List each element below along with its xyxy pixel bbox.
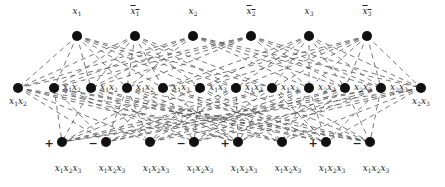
bottom-node-5 bbox=[277, 137, 287, 147]
edge bbox=[200, 36, 367, 88]
edges-layer bbox=[0, 0, 445, 187]
edge bbox=[91, 36, 251, 88]
bottom-node-4 bbox=[233, 137, 243, 147]
edge bbox=[251, 36, 381, 88]
middle-node-6 bbox=[231, 83, 241, 93]
sign-6: + bbox=[308, 137, 317, 150]
edge bbox=[18, 36, 77, 88]
middle-label-2: x1x2 bbox=[100, 83, 118, 93]
edge bbox=[236, 36, 367, 88]
edge bbox=[251, 36, 309, 88]
edge bbox=[62, 88, 91, 142]
edge bbox=[77, 36, 200, 88]
bottom-node-6 bbox=[321, 137, 331, 147]
middle-node-1 bbox=[49, 83, 59, 93]
edge bbox=[367, 36, 421, 88]
edge bbox=[54, 88, 106, 142]
edge bbox=[18, 36, 135, 88]
edge bbox=[309, 36, 381, 88]
top-node-0 bbox=[72, 31, 82, 41]
sign-3: − bbox=[176, 137, 185, 150]
edge bbox=[236, 36, 309, 88]
sign-7: − bbox=[352, 137, 361, 150]
middle-label-4: x1x3 bbox=[172, 83, 190, 93]
edge bbox=[193, 36, 309, 88]
bottom-node-0 bbox=[57, 137, 67, 147]
edge bbox=[163, 36, 367, 88]
middle-node-9 bbox=[340, 83, 350, 93]
top-node-5 bbox=[362, 31, 372, 41]
bottom-label-4: x1x2x3 bbox=[231, 164, 258, 174]
edge bbox=[127, 36, 251, 88]
sign-4: + bbox=[220, 137, 229, 150]
middle-node-8 bbox=[304, 83, 314, 93]
middle-label-6: x1x3 bbox=[245, 83, 263, 93]
edge bbox=[150, 88, 200, 142]
bottom-node-2 bbox=[145, 137, 155, 147]
edge bbox=[135, 36, 200, 88]
middle-label-0: x1x2 bbox=[9, 97, 27, 107]
bottom-node-7 bbox=[365, 137, 375, 147]
middle-label-1: x1x2 bbox=[63, 83, 81, 93]
middle-label-5: x1x3 bbox=[209, 83, 227, 93]
top-label-4: x3 bbox=[305, 7, 314, 17]
bottom-label-5: x1x2x3 bbox=[275, 164, 302, 174]
edge bbox=[127, 36, 193, 88]
top-label-2: x2 bbox=[189, 7, 198, 17]
edge bbox=[200, 36, 309, 88]
middle-node-2 bbox=[86, 83, 96, 93]
middle-node-7 bbox=[267, 83, 277, 93]
middle-node-5 bbox=[195, 83, 205, 93]
edge bbox=[367, 36, 381, 88]
bottom-label-2: x1x2x3 bbox=[143, 164, 170, 174]
edge bbox=[106, 88, 236, 142]
bottom-label-0: x1x2x3 bbox=[55, 164, 82, 174]
top-node-2 bbox=[188, 31, 198, 41]
middle-node-11 bbox=[416, 83, 426, 93]
top-label-3: x2 bbox=[247, 7, 256, 17]
bottom-label-1: x1x2x3 bbox=[99, 164, 126, 174]
bottom-label-6: x1x2x3 bbox=[319, 164, 346, 174]
middle-label-7: x1x3 bbox=[281, 83, 299, 93]
edge bbox=[91, 36, 135, 88]
middle-label-9: x2x3 bbox=[354, 83, 372, 93]
middle-label-8: x2x3 bbox=[318, 83, 336, 93]
edge bbox=[194, 88, 200, 142]
middle-node-10 bbox=[376, 83, 386, 93]
top-label-5: x3 bbox=[363, 7, 372, 17]
top-label-1: x1 bbox=[131, 7, 140, 17]
edge bbox=[326, 88, 421, 142]
edge bbox=[309, 36, 421, 88]
sign-0: + bbox=[44, 137, 53, 150]
top-node-1 bbox=[130, 31, 140, 41]
middle-label-3: x1x2 bbox=[136, 83, 154, 93]
edge bbox=[54, 88, 370, 142]
middle-node-0 bbox=[13, 83, 23, 93]
middle-label-11: x2x3 bbox=[412, 97, 430, 107]
middle-node-3 bbox=[122, 83, 132, 93]
sign-1: − bbox=[88, 137, 97, 150]
bottom-node-3 bbox=[189, 137, 199, 147]
middle-label-10: x2x3 bbox=[390, 83, 408, 93]
edge bbox=[54, 36, 251, 88]
edge bbox=[77, 36, 163, 88]
top-node-3 bbox=[246, 31, 256, 41]
bottom-label-7: x1x2x3 bbox=[363, 164, 390, 174]
middle-node-4 bbox=[158, 83, 168, 93]
edge bbox=[236, 88, 238, 142]
bottom-node-1 bbox=[101, 137, 111, 147]
edge bbox=[370, 88, 381, 142]
edge bbox=[54, 88, 194, 142]
bottom-label-3: x1x2x3 bbox=[187, 164, 214, 174]
top-node-4 bbox=[304, 31, 314, 41]
top-label-0: x1 bbox=[73, 7, 82, 17]
edge bbox=[309, 36, 345, 88]
edge bbox=[193, 36, 421, 88]
